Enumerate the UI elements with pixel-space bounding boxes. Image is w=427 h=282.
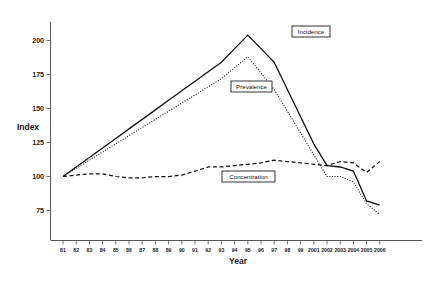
x-tick-label: 94: [232, 247, 238, 253]
y-tick-label: 125: [32, 139, 44, 146]
legend-prevalence: Prevalence: [231, 81, 272, 92]
y-tick-label: 75: [36, 207, 44, 214]
x-tick-label: 86: [126, 247, 132, 253]
y-tick-label: 100: [32, 173, 44, 180]
x-tick-label: 84: [100, 247, 106, 253]
y-tick-label: 175: [32, 71, 44, 78]
y-tick-label: 200: [32, 37, 44, 44]
legend-prevalence-label: Prevalence: [236, 83, 268, 90]
legend-concentration-label: Concentration: [229, 173, 268, 180]
x-tick-label: 96: [258, 247, 264, 253]
line-chart-canvas: 75100125150175200 8182838485868788899091…: [0, 0, 427, 282]
x-tick-label: 90: [179, 247, 185, 253]
x-tick-label: 93: [219, 247, 225, 253]
y-tick-label: 150: [32, 105, 44, 112]
x-tick-label: 2003: [334, 247, 346, 253]
x-tick-label: 83: [87, 247, 93, 253]
x-tick-label: 2004: [348, 247, 360, 253]
x-tick-label: 81: [60, 247, 66, 253]
x-tick-label: 95: [245, 247, 251, 253]
x-tick-label: 97: [271, 247, 277, 253]
x-tick-label: 91: [192, 247, 198, 253]
x-tick-label: 2006: [374, 247, 386, 253]
legend-incidence: Incidence: [292, 26, 330, 37]
legend-concentration: Concentration: [222, 171, 275, 182]
x-tick-label: 89: [166, 247, 172, 253]
x-tick-label: 85: [113, 247, 119, 253]
x-tick-label: 2001: [308, 247, 320, 253]
x-tick-label: 82: [73, 247, 79, 253]
x-axis-title: Year: [229, 256, 248, 266]
y-axis-title: Index: [17, 122, 39, 132]
x-tick-label: 87: [139, 247, 145, 253]
x-tick-label: 99: [298, 247, 304, 253]
x-tick-label: 88: [153, 247, 159, 253]
chart-background: [0, 0, 427, 282]
x-tick-label: 2002: [321, 247, 333, 253]
chart-figure: 75100125150175200 8182838485868788899091…: [0, 0, 427, 282]
x-tick-label: 98: [285, 247, 291, 253]
x-tick-label: 92: [205, 247, 211, 253]
legend-incidence-label: Incidence: [298, 28, 325, 35]
x-tick-label: 2005: [361, 247, 373, 253]
